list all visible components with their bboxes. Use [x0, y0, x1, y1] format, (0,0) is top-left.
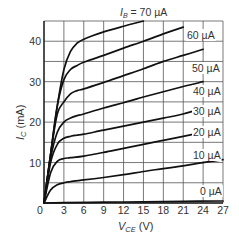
x-axis-title: VCE (V): [118, 220, 154, 234]
x-tick-label: 3: [61, 204, 67, 216]
y-tick-label: 10: [29, 157, 41, 169]
label-ib-60: 60 µA: [187, 29, 215, 41]
transistor-characteristic-chart: IB = 70 µA 60 µA 50 µA 40 µA 30 µA 20 µA…: [0, 0, 239, 240]
x-tick-label: 6: [81, 204, 87, 216]
x-tick-label: 21: [177, 204, 189, 216]
y-tick-label: 30: [29, 76, 41, 88]
x-tick-label: 12: [118, 204, 130, 216]
label-ib-50: 50 µA: [192, 62, 220, 74]
x-tick-label: 15: [138, 204, 150, 216]
label-ib-20: 20 µA: [193, 126, 221, 138]
y-tick-label: 20: [29, 116, 41, 128]
label-ib-10: 10 µA: [193, 149, 221, 161]
x-tick-label: 9: [101, 204, 107, 216]
label-ib-0: 0 µA: [200, 185, 222, 197]
y-tick-label: 40: [29, 35, 41, 47]
label-ib-70: IB = 70 µA: [120, 6, 167, 19]
x-tick-label: 24: [197, 204, 209, 216]
x-tick-label: 27: [217, 204, 229, 216]
y-axis-title: IC (mA): [14, 105, 28, 140]
curve-10ua: [44, 160, 223, 203]
label-ib-30: 30 µA: [193, 105, 221, 117]
x-tick-label: 18: [157, 204, 169, 216]
curve-70ua: [44, 21, 143, 203]
x-tick-label: 0: [37, 204, 43, 216]
label-ib-40: 40 µA: [193, 85, 221, 97]
